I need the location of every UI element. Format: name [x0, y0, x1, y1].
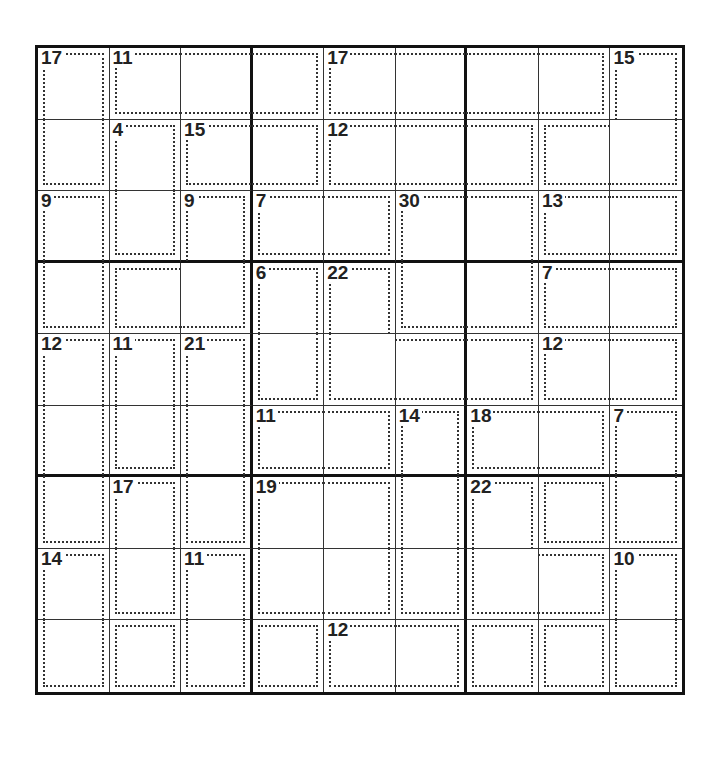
cell-r2c3[interactable]: 15 [181, 120, 253, 192]
cell-r7c6[interactable] [396, 477, 468, 549]
cage-outline [395, 625, 460, 687]
cage-outline [323, 411, 390, 470]
cell-r7c5[interactable] [324, 477, 396, 549]
cell-r4c3[interactable] [181, 263, 253, 335]
cage-outline [544, 125, 611, 186]
cell-r2c9[interactable] [610, 120, 682, 192]
cell-r4c6[interactable] [396, 263, 468, 335]
cell-r1c2[interactable]: 11 [110, 48, 182, 120]
cell-r8c8[interactable] [539, 549, 611, 621]
cell-r6c1[interactable] [38, 406, 110, 478]
cell-r4c8[interactable]: 7 [539, 263, 611, 335]
cage-outline [544, 625, 605, 687]
cell-r6c4[interactable]: 11 [253, 406, 325, 478]
cage-outline [466, 53, 539, 114]
cell-r6c5[interactable] [324, 406, 396, 478]
cell-r5c2[interactable]: 11 [110, 334, 182, 406]
cage-outline [466, 262, 533, 329]
cell-r8c2[interactable] [110, 549, 182, 621]
cell-r6c2[interactable] [110, 406, 182, 478]
cell-r2c6[interactable] [396, 120, 468, 192]
cell-r6c3[interactable] [181, 406, 253, 478]
cage-sum-clue: 6 [256, 263, 269, 283]
cell-r3c3[interactable]: 9 [181, 191, 253, 263]
cell-r5c6[interactable] [396, 334, 468, 406]
cell-r7c8[interactable] [539, 477, 611, 549]
cell-r2c1[interactable] [38, 120, 110, 192]
cell-r8c3[interactable]: 11 [181, 549, 253, 621]
cage-sum-clue: 15 [613, 48, 636, 68]
cell-r4c7[interactable] [467, 263, 539, 335]
cell-r8c4[interactable] [253, 549, 325, 621]
cell-r8c1[interactable]: 14 [38, 549, 110, 621]
cell-r5c7[interactable] [467, 334, 539, 406]
cell-r9c5[interactable]: 12 [324, 620, 396, 692]
cell-r9c2[interactable] [110, 620, 182, 692]
killer-sudoku-grid: 1711171541512997301362271211211211141871… [35, 45, 685, 695]
cell-r5c8[interactable]: 12 [539, 334, 611, 406]
cell-r8c6[interactable] [396, 549, 468, 621]
cage-sum-clue: 7 [256, 191, 269, 211]
cell-r8c5[interactable] [324, 549, 396, 621]
cage-outline [258, 548, 325, 615]
cell-r7c7[interactable]: 22 [467, 477, 539, 549]
cell-r3c5[interactable] [324, 191, 396, 263]
cell-r9c3[interactable] [181, 620, 253, 692]
cell-r7c3[interactable] [181, 477, 253, 549]
cell-r6c9[interactable]: 7 [610, 406, 682, 478]
cell-r3c6[interactable]: 30 [396, 191, 468, 263]
cage-outline [115, 268, 182, 329]
cell-r6c8[interactable] [539, 406, 611, 478]
cell-r5c3[interactable]: 21 [181, 334, 253, 406]
cell-r3c1[interactable]: 9 [38, 191, 110, 263]
cell-r5c5[interactable] [324, 334, 396, 406]
cell-r9c1[interactable] [38, 620, 110, 692]
cage-sum-clue: 30 [399, 191, 422, 211]
cell-r9c6[interactable] [396, 620, 468, 692]
cage-outline [466, 196, 533, 261]
cell-r9c9[interactable] [610, 620, 682, 692]
cell-r5c4[interactable] [253, 334, 325, 406]
cell-r7c4[interactable]: 19 [253, 477, 325, 549]
cage-sum-clue: 13 [542, 191, 565, 211]
cell-r9c8[interactable] [539, 620, 611, 692]
cell-r1c9[interactable]: 15 [610, 48, 682, 120]
cell-r9c7[interactable] [467, 620, 539, 692]
cell-r8c7[interactable] [467, 549, 539, 621]
cell-r8c9[interactable]: 10 [610, 549, 682, 621]
cell-r1c4[interactable] [253, 48, 325, 120]
cell-r2c4[interactable] [253, 120, 325, 192]
cell-r2c5[interactable]: 12 [324, 120, 396, 192]
cell-r9c4[interactable] [253, 620, 325, 692]
cell-r5c9[interactable] [610, 334, 682, 406]
cell-r3c9[interactable] [610, 191, 682, 263]
cell-r1c5[interactable]: 17 [324, 48, 396, 120]
cage-outline [186, 405, 245, 476]
cell-r2c8[interactable] [539, 120, 611, 192]
cell-r1c7[interactable] [467, 48, 539, 120]
cell-r1c8[interactable] [539, 48, 611, 120]
cage-outline [401, 262, 466, 329]
cell-r6c6[interactable]: 14 [396, 406, 468, 478]
cell-r5c1[interactable]: 12 [38, 334, 110, 406]
cell-r1c6[interactable] [396, 48, 468, 120]
cell-r4c5[interactable]: 22 [324, 263, 396, 335]
cell-r2c2[interactable]: 4 [110, 120, 182, 192]
cell-r7c1[interactable] [38, 477, 110, 549]
cell-r2c7[interactable] [467, 120, 539, 192]
cell-r3c2[interactable] [110, 191, 182, 263]
cage-outline [472, 625, 533, 687]
cell-r7c9[interactable] [610, 477, 682, 549]
cage-sum-clue: 7 [613, 406, 626, 426]
cell-r4c1[interactable] [38, 263, 110, 335]
cell-r3c8[interactable]: 13 [539, 191, 611, 263]
cell-r3c4[interactable]: 7 [253, 191, 325, 263]
cell-r7c2[interactable]: 17 [110, 477, 182, 549]
cell-r4c4[interactable]: 6 [253, 263, 325, 335]
cell-r3c7[interactable] [467, 191, 539, 263]
cell-r6c7[interactable]: 18 [467, 406, 539, 478]
cell-r1c3[interactable] [181, 48, 253, 120]
cell-r1c1[interactable]: 17 [38, 48, 110, 120]
cell-r4c2[interactable] [110, 263, 182, 335]
cell-r4c9[interactable] [610, 263, 682, 335]
